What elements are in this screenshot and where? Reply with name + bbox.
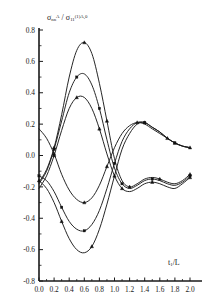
y-tick-label: 0.4 — [26, 88, 36, 97]
x-tick-label: 1.8 — [170, 285, 180, 294]
series-marker — [105, 165, 108, 168]
x-tick-label: 0.2 — [49, 285, 59, 294]
x-tick-label: 1.4 — [140, 285, 150, 294]
series-marker — [53, 148, 55, 150]
x-tick-label: 1.6 — [155, 285, 165, 294]
y-tick-label: 0.0 — [26, 151, 36, 160]
y-tick-label: -0.2 — [23, 183, 35, 192]
curves-group — [37, 41, 191, 253]
y-tick-label: -0.6 — [23, 245, 35, 254]
x-tick-label: 1.2 — [125, 285, 135, 294]
series-marker — [83, 230, 85, 232]
x-tick-label: 0.0 — [34, 285, 44, 294]
y-tick-label: -0.4 — [23, 214, 35, 223]
y-axis-label-text: σnnA / σ11(1)A,0 — [47, 13, 87, 22]
series-marker — [38, 175, 40, 177]
series-line — [39, 42, 190, 186]
y-tick-label: 0.2 — [26, 120, 36, 129]
series-upper-1 — [39, 41, 192, 188]
x-tick-label: 1.0 — [110, 285, 120, 294]
x-axis-label-text: t1/L — [168, 258, 180, 267]
x-tick-label: 0.8 — [95, 285, 105, 294]
series-line — [39, 122, 190, 253]
x-tick-label: 2.0 — [185, 285, 195, 294]
figure-root: 0.00.20.40.60.81.01.21.41.61.82.00.80.60… — [0, 0, 209, 303]
series-marker — [61, 206, 63, 208]
y-tick-label: 0.6 — [26, 57, 36, 66]
x-axis-label: t1/L — [168, 258, 180, 267]
series-marker — [113, 174, 116, 177]
x-tick-label: 0.6 — [80, 285, 90, 294]
series-marker — [60, 220, 63, 223]
y-axis-label: σnnA / σ11(1)A,0 — [47, 13, 87, 22]
series-marker — [151, 178, 153, 180]
series-marker — [105, 119, 108, 122]
series-marker — [76, 76, 78, 78]
x-tick-label: 0.4 — [65, 285, 75, 294]
y-tick-label: -0.8 — [23, 277, 35, 286]
series-marker — [121, 183, 123, 185]
series-marker — [98, 127, 101, 130]
series-marker — [98, 107, 100, 109]
series-marker — [113, 162, 115, 164]
y-tick-label: 0.8 — [26, 26, 36, 35]
